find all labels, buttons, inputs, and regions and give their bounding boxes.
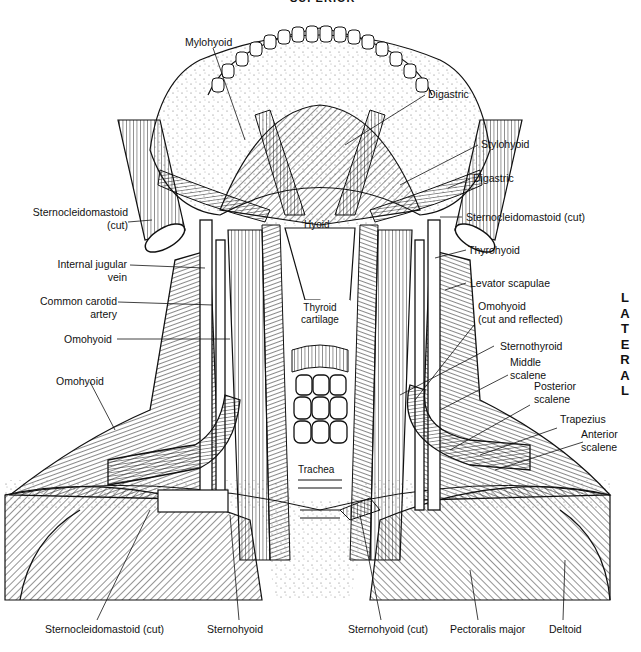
label-line: artery <box>20 308 117 321</box>
label-line: (cut) <box>20 219 128 232</box>
lateral-letter: R <box>618 352 632 368</box>
label-internal-jugular-vein: Internal jugular vein <box>20 258 127 284</box>
label-line: scalene <box>581 441 618 454</box>
vessels-right <box>415 220 440 510</box>
lateral-letter: A <box>618 368 632 384</box>
label-line: Internal jugular <box>20 258 127 271</box>
label-scm-cut-right: Sternocleidomastoid (cut) <box>466 211 585 224</box>
label-sternohyoid-cut: Sternohyoid (cut) <box>348 623 428 636</box>
label-line: Anterior <box>581 428 618 441</box>
label-omohyoid-reflected: Omohyoid (cut and reflected) <box>478 300 563 326</box>
label-sternothyroid: Sternothyroid <box>500 340 562 353</box>
label-hyoid: Hyoid <box>304 218 330 231</box>
lateral-letter: T <box>618 321 632 337</box>
label-omohyoid-low: Omohyoid <box>56 375 104 388</box>
label-thyroid-cartilage: Thyroid cartilage <box>290 302 350 326</box>
label-line: Sternocleidomastoid <box>20 206 128 219</box>
label-middle-scalene: Middle scalene <box>510 356 546 382</box>
orientation-lateral: L A T E R A L <box>618 290 632 399</box>
label-digastric-right: Digastric <box>473 172 514 185</box>
neck-muscles-illustration <box>0 0 641 652</box>
lateral-letter: L <box>618 290 632 306</box>
label-pectoralis-major: Pectoralis major <box>450 623 525 636</box>
label-scm-cut-bottom: Sternocleidomastoid (cut) <box>45 623 164 636</box>
lateral-letter: A <box>618 306 632 322</box>
label-levator-scapulae: Levator scapulae <box>470 277 550 290</box>
lateral-letter: L <box>618 383 632 399</box>
label-line: Thyroid <box>290 302 350 314</box>
label-mylohyoid: Mylohyoid <box>185 36 232 49</box>
label-scm-cut-left: Sternocleidomastoid (cut) <box>20 206 128 232</box>
orientation-superior: SUPERIOR <box>290 0 355 4</box>
label-line: Posterior <box>534 380 576 393</box>
scm-stump-bottom <box>158 490 228 512</box>
label-thyrohyoid: Thyrohyoid <box>468 244 520 257</box>
label-digastric-top: Digastric <box>428 88 469 101</box>
label-omohyoid-mid: Omohyoid <box>64 333 112 346</box>
label-trapezius: Trapezius <box>560 413 606 426</box>
label-posterior-scalene: Posterior scalene <box>534 380 576 406</box>
label-line: (cut and reflected) <box>478 313 563 326</box>
label-deltoid: Deltoid <box>549 623 582 636</box>
label-line: cartilage <box>290 314 350 326</box>
label-line: Omohyoid <box>478 300 563 313</box>
label-line: Middle <box>510 356 546 369</box>
label-stylohyoid: Stylohyoid <box>481 138 529 151</box>
label-anterior-scalene: Anterior scalene <box>581 428 618 454</box>
label-common-carotid-artery: Common carotid artery <box>20 295 117 321</box>
lateral-letter: E <box>618 337 632 353</box>
label-line: vein <box>20 271 127 284</box>
label-sternohyoid: Sternohyoid <box>207 623 263 636</box>
label-line: scalene <box>534 393 576 406</box>
label-trachea: Trachea <box>298 463 334 476</box>
label-line: Common carotid <box>20 295 117 308</box>
